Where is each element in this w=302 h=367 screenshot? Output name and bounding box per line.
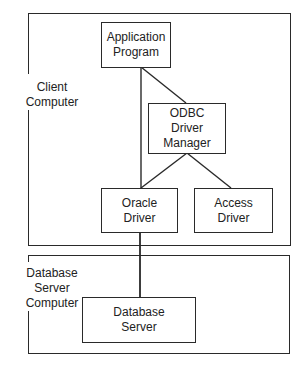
odbc-driver-manager-node: ODBC Driver Manager xyxy=(148,103,226,154)
database-server-node: Database Server xyxy=(82,297,196,343)
access-driver-node: Access Driver xyxy=(194,188,273,233)
application-program-node: Application Program xyxy=(101,22,171,68)
oracle-driver-node: Oracle Driver xyxy=(101,188,178,233)
